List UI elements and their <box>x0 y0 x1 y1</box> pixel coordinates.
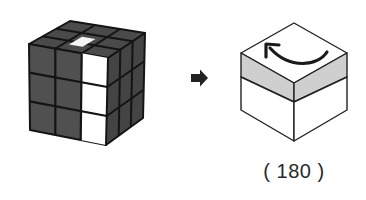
move-caption: ( 180 ) <box>244 160 344 183</box>
rotation-box-icon <box>241 23 347 141</box>
right-arrow-icon <box>191 70 208 87</box>
rubiks-move-diagram: ( 180 ) <box>0 0 366 200</box>
rubiks-cube-icon <box>29 21 145 145</box>
